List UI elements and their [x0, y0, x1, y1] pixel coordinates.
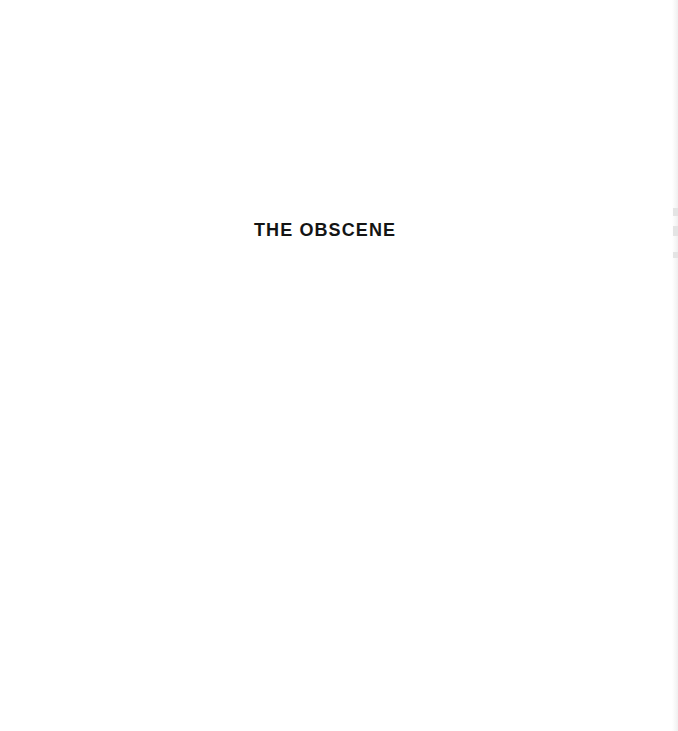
section-title: THE OBSCENE	[254, 219, 396, 241]
page-edge-mark	[673, 226, 678, 236]
page-edge-mark	[673, 252, 678, 258]
page-edge-mark	[673, 208, 678, 216]
book-page: THE OBSCENE	[0, 0, 678, 731]
page-edge-shadow	[672, 0, 678, 731]
